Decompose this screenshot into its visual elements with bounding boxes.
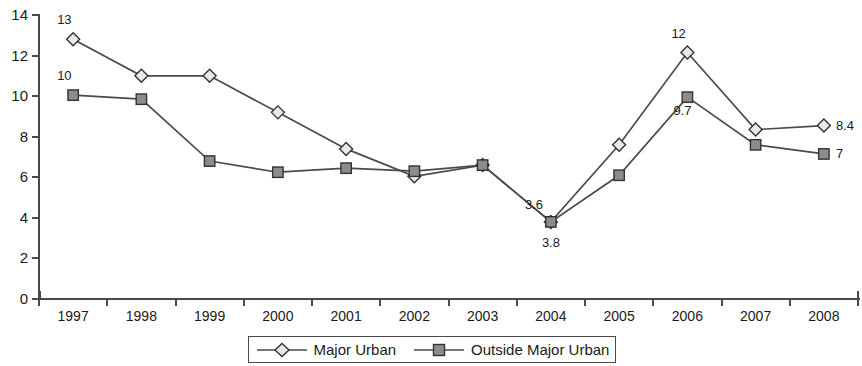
data-point-diamond [203,69,216,82]
data-point-label: 3.8 [542,236,560,250]
plot-area [0,0,862,366]
square-marker-icon [412,341,466,359]
data-point-label: 10 [57,69,71,83]
data-point-diamond [817,119,830,132]
data-point-square [546,217,556,227]
legend-label-major-urban: Major Urban [314,342,397,357]
chart-legend: Major Urban Outside Major Urban [248,336,616,363]
data-point-diamond [271,106,284,119]
data-point-square [750,140,760,150]
series-line [73,95,824,222]
legend-label-outside-major-urban: Outside Major Urban [471,342,609,357]
legend-item-major-urban: Major Urban [255,341,397,359]
data-point-square [273,167,283,177]
data-point-square [682,92,692,102]
legend-item-outside-major-urban: Outside Major Urban [412,341,609,359]
data-point-square [341,163,351,173]
data-point-label: 7 [836,147,843,161]
data-point-label: 8.4 [836,119,854,133]
data-point-square [204,156,214,166]
data-point-square [614,170,624,180]
data-point-label: 12 [671,27,685,41]
data-point-label: 13 [57,13,71,27]
data-point-diamond [67,33,80,46]
data-point-square [409,166,419,176]
diamond-marker-icon [255,341,309,359]
data-point-label: 3.6 [525,198,543,212]
line-chart: 02468101214 1997199819992000200120022003… [0,0,862,366]
data-point-square [68,90,78,100]
data-point-diamond [340,142,353,155]
data-point-square [819,149,829,159]
data-point-label: 9.7 [673,104,691,118]
data-point-square [477,160,487,170]
series-line [73,39,824,222]
data-point-square [136,94,146,104]
data-point-diamond [135,69,148,82]
